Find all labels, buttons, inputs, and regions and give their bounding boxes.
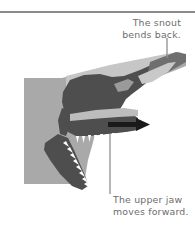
upper-jaw-callout-label: The upper jaw moves forward. xyxy=(113,194,195,217)
jaw-mechanics-figure: The snout bends back. The upper jaw move… xyxy=(0,0,195,227)
snout-callout-label: The snout bends back. xyxy=(95,17,181,40)
